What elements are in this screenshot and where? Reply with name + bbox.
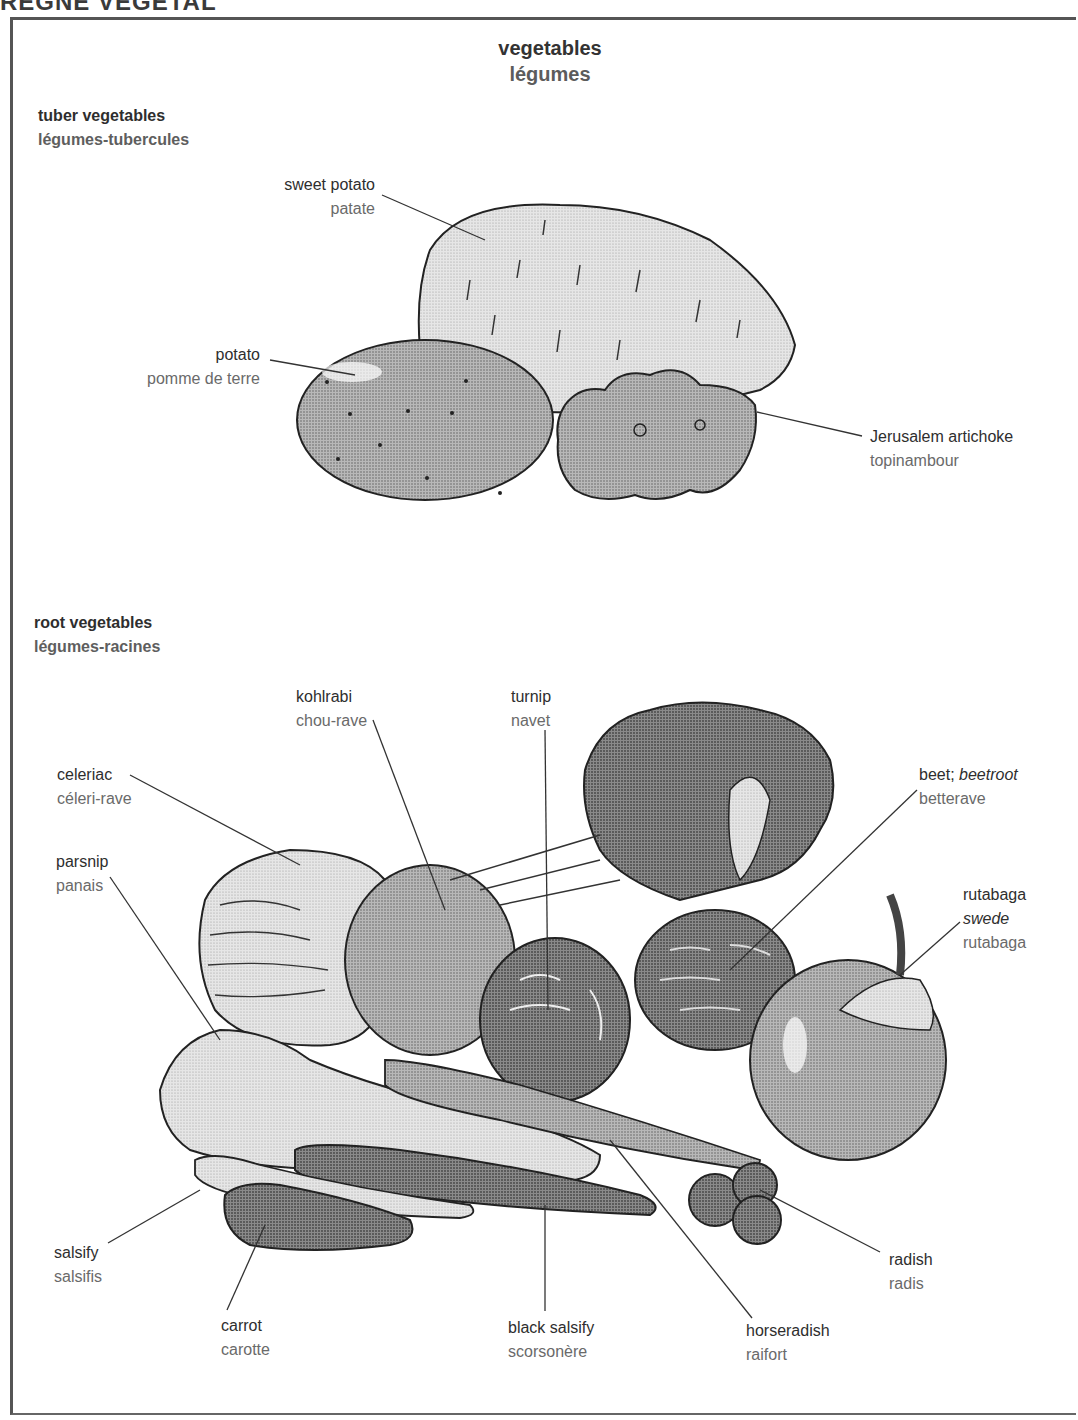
label-black-salsify: black salsify scorsonère	[508, 1316, 594, 1364]
jerusalem-artichoke-shape	[557, 370, 756, 499]
label-potato: potato pomme de terre	[110, 343, 260, 391]
label-salsify: salsify salsifis	[54, 1241, 102, 1289]
label-jerusalem-artichoke: Jerusalem artichoke topinambour	[870, 425, 1013, 473]
label-sweet-potato: sweet potato patate	[240, 173, 375, 221]
radish-shapes	[689, 1163, 781, 1244]
label-carrot: carrot carotte	[221, 1314, 270, 1362]
label-horseradish: horseradish raifort	[746, 1319, 830, 1367]
label-celeriac: celeriac céleri-rave	[57, 763, 132, 811]
label-radish: radish radis	[889, 1248, 933, 1296]
label-turnip: turnip navet	[511, 685, 551, 733]
label-rutabaga: rutabaga swede rutabaga	[963, 883, 1026, 955]
beet-leaves-shape	[584, 703, 833, 901]
turnip-shape	[480, 938, 630, 1102]
label-parsnip: parsnip panais	[56, 850, 108, 898]
label-beet: beet; beetroot betterave	[919, 763, 1018, 811]
label-kohlrabi: kohlrabi chou-rave	[296, 685, 367, 733]
